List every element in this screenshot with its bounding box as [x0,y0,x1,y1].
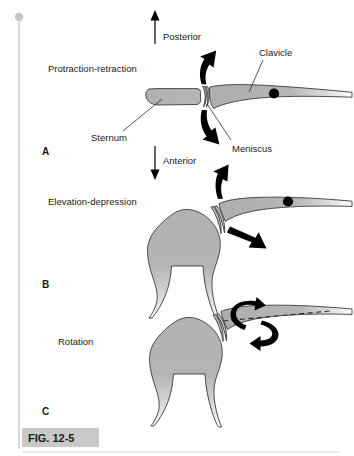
panel-c: Rotation C [42,297,352,427]
anterior-arrow-icon [151,146,160,180]
depression-arrow-icon [227,227,267,249]
elevation-arrow-icon [213,164,228,199]
panel-b-letter: B [42,279,49,290]
figure-caption: FIG. 12-5 [22,428,340,452]
sternum-label: Sternum [91,132,127,143]
meniscus-shape [203,87,210,108]
retraction-arrow-icon [201,110,220,144]
clavicle-landmark-dot-b [283,196,293,206]
sternum-shape [146,89,201,105]
panel-c-motion-label: Rotation [58,336,93,347]
posterior-arrow-icon [151,10,160,44]
posterior-label: Posterior [163,31,201,42]
panel-a-motion-label: Protraction-retraction [48,63,137,74]
figure-number-label: FIG. 12-5 [28,432,74,444]
panel-a: Protraction-retraction Posterior Anterio… [42,10,352,180]
rotation-arrow-lower-icon [250,321,279,352]
panel-b-motion-label: Elevation-depression [48,196,137,207]
sternum-leader-line [123,99,162,131]
anterior-label: Anterior [163,155,196,166]
left-margin-rule [15,13,23,448]
scapula-shape-c [149,317,222,427]
anatomy-figure-svg: Protraction-retraction Posterior Anterio… [0,0,354,456]
clavicle-shape-a [209,85,352,109]
panel-c-letter: C [42,406,49,417]
scapula-shape-b [147,209,220,319]
figure-container: Protraction-retraction Posterior Anterio… [0,0,354,456]
panel-a-letter: A [42,146,49,157]
meniscus-label: Meniscus [232,143,272,154]
clavicle-label: Clavicle [259,47,292,58]
clavicle-landmark-dot [269,88,279,98]
panel-b: Elevation-depression B [42,164,352,319]
protraction-arrow-icon [200,51,216,85]
